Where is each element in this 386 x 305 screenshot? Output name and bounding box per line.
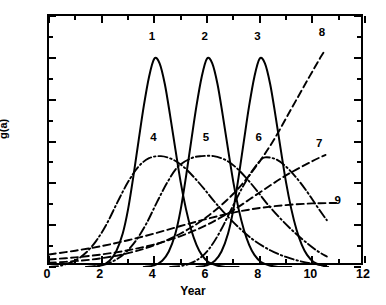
y-axis-major-tick-right (354, 182, 361, 184)
x-tick-label: 8 (238, 268, 278, 281)
y-axis-major-tick-right (354, 15, 361, 17)
y-axis-minor-tick (49, 36, 53, 38)
x-axis-major-tick (259, 256, 261, 263)
x-axis-major-tick (153, 256, 155, 263)
curve-label-1: 1 (149, 31, 155, 43)
y-axis-minor-tick (49, 161, 53, 163)
x-tick-label: 10 (290, 268, 330, 281)
y-axis-major-tick (49, 15, 56, 17)
x-axis-minor-tick (285, 259, 287, 263)
x-tick-label: 6 (185, 268, 225, 281)
x-axis-minor-tick-top (285, 16, 287, 20)
y-axis-major-tick (49, 141, 56, 143)
y-axis-major-tick-right (354, 224, 361, 226)
x-tick-label: 0 (27, 268, 67, 281)
curve-label-7: 7 (316, 138, 322, 150)
curve-label-5: 5 (203, 132, 209, 144)
x-axis-minor-tick-top (232, 16, 234, 20)
curve-6 (170, 157, 327, 267)
x-axis-minor-tick-top (338, 16, 340, 20)
curve-1 (91, 58, 238, 267)
x-axis-minor-tick (127, 259, 129, 263)
y-axis-minor-tick (49, 120, 53, 122)
x-tick-label: 4 (132, 268, 172, 281)
y-axis-major-tick (49, 57, 56, 59)
curve-8 (49, 49, 326, 262)
y-axis-minor-tick (49, 245, 53, 247)
y-axis-major-tick (49, 224, 56, 226)
y-axis-minor-tick-right (357, 120, 361, 122)
x-axis-major-tick (364, 256, 366, 263)
curve-label-8: 8 (319, 27, 325, 39)
x-axis-minor-tick-top (74, 16, 76, 20)
y-axis-title: g(a) (0, 119, 9, 139)
x-tick-label: 12 (343, 268, 383, 281)
curve-label-9: 9 (334, 195, 340, 207)
curve-label-3: 3 (254, 31, 260, 43)
y-axis-major-tick-right (354, 57, 361, 59)
y-axis-minor-tick (49, 78, 53, 80)
x-axis-minor-tick-top (180, 16, 182, 20)
chart-figure: g(a) 0.00.10.20.30.40.50.602468101212345… (0, 0, 386, 305)
x-axis-title: Year (0, 285, 386, 297)
x-axis-major-tick (48, 256, 50, 263)
x-axis-major-tick-top (153, 16, 155, 23)
x-axis-major-tick (101, 256, 103, 263)
y-axis-major-tick-right (354, 141, 361, 143)
x-axis-major-tick-top (206, 16, 208, 23)
y-axis-minor-tick-right (357, 245, 361, 247)
y-axis-major-tick-right (354, 99, 361, 101)
x-axis-minor-tick (180, 259, 182, 263)
x-axis-minor-tick (338, 259, 340, 263)
curve-label-2: 2 (202, 31, 208, 43)
x-axis-major-tick (206, 256, 208, 263)
y-axis-minor-tick-right (357, 36, 361, 38)
curve-label-4: 4 (150, 132, 156, 144)
y-axis-major-tick (49, 182, 56, 184)
x-axis-major-tick-top (48, 16, 50, 23)
x-axis-major-tick (311, 256, 313, 263)
curve-label-6: 6 (255, 132, 261, 144)
x-axis-major-tick-top (364, 16, 366, 23)
y-axis-minor-tick-right (357, 203, 361, 205)
y-axis-minor-tick (49, 203, 53, 205)
y-axis-minor-tick-right (357, 161, 361, 163)
y-axis-minor-tick-right (357, 78, 361, 80)
x-axis-minor-tick (74, 259, 76, 263)
x-axis-major-tick-top (311, 16, 313, 23)
x-axis-minor-tick-top (127, 16, 129, 20)
x-axis-major-tick-top (259, 16, 261, 23)
x-axis-minor-tick (232, 259, 234, 263)
x-tick-label: 2 (80, 268, 120, 281)
y-axis-major-tick (49, 99, 56, 101)
x-axis-major-tick-top (101, 16, 103, 23)
